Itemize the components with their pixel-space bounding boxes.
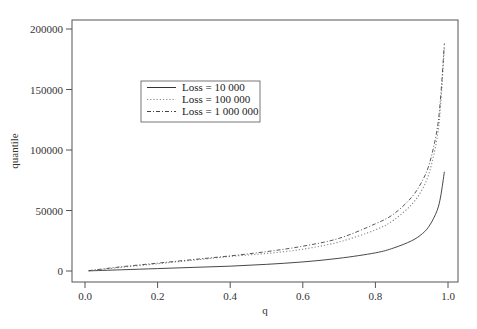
y-tick-label: 150000 bbox=[30, 84, 64, 96]
chart: 050000100000150000200000 0.00.20.40.60.8… bbox=[0, 0, 477, 329]
y-tick-label: 100000 bbox=[30, 144, 64, 156]
y-tick-label: 200000 bbox=[30, 23, 64, 35]
x-tick-label: 0.2 bbox=[151, 290, 165, 302]
series-line-1 bbox=[89, 172, 445, 271]
y-tick-label: 50000 bbox=[36, 205, 64, 217]
legend-label-2: Loss = 100 000 bbox=[182, 93, 251, 105]
x-tick-label: 0.6 bbox=[296, 290, 310, 302]
series-line-3 bbox=[89, 44, 445, 271]
legend-label-1: Loss = 10 000 bbox=[182, 81, 245, 93]
series-lines bbox=[89, 44, 445, 271]
x-tick-label: 1.0 bbox=[441, 290, 455, 302]
plot-frame bbox=[72, 20, 458, 282]
x-axis: 0.00.20.40.60.81.0 bbox=[78, 282, 455, 302]
x-tick-label: 0.4 bbox=[223, 290, 237, 302]
x-tick-label: 0.0 bbox=[78, 290, 92, 302]
legend: Loss = 10 000Loss = 100 000Loss = 1 000 … bbox=[141, 81, 260, 122]
legend-label-3: Loss = 1 000 000 bbox=[182, 105, 259, 117]
x-axis-label: q bbox=[262, 304, 268, 316]
y-axis: 050000100000150000200000 bbox=[30, 23, 72, 277]
y-tick-label: 0 bbox=[58, 265, 64, 277]
x-tick-label: 0.8 bbox=[369, 290, 383, 302]
y-axis-label: quantile bbox=[8, 133, 20, 169]
